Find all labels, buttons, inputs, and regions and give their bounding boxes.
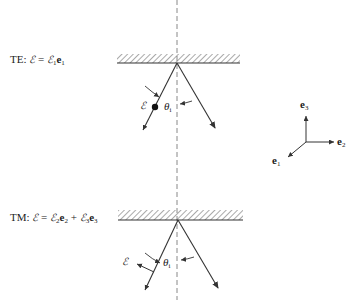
tm-angle-label: θi [163, 257, 170, 270]
tm-normal-angle-arc-icon [181, 257, 194, 260]
e1-axis-label: e1 [272, 155, 280, 168]
te-normal-angle-arc-icon [180, 101, 192, 104]
reflection-diagram [0, 0, 362, 307]
coordinate-axes [288, 116, 334, 157]
e2-axis-label: e2 [337, 136, 345, 149]
te-angle-label: θi [164, 101, 171, 114]
e1-axis-arrow-icon [288, 142, 306, 157]
te-equation-label: TE: ℰ = ℰ1e1 [10, 54, 65, 67]
tm-mirror [118, 210, 243, 220]
te-incident-ray [143, 63, 177, 130]
tm-reflected-ray [178, 220, 218, 288]
te-reflected-ray [177, 63, 215, 128]
tm-equation-label: TM: ℰ = ℰ2e2 + ℰ3e3 [10, 212, 98, 225]
te-field-label: ℰ [140, 101, 146, 111]
e3-axis-label: e3 [300, 99, 308, 112]
tm-field-arrow-icon [137, 264, 154, 272]
tm-field-label: ℰ [122, 257, 128, 267]
tm-incident-angle-arc-icon [145, 253, 160, 263]
te-mirror [117, 54, 240, 63]
tm-mode-label: TM: [10, 211, 30, 223]
te-incident-angle-arc-icon [145, 86, 159, 97]
te-field-dot-icon [152, 104, 158, 110]
tm-incident-ray [145, 220, 178, 290]
te-mode-label: TE: [10, 53, 27, 65]
